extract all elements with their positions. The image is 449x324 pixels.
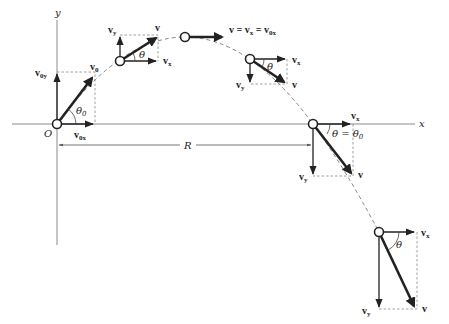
vy-label: vy xyxy=(362,305,371,318)
projectile-ball xyxy=(53,120,62,129)
theta-equals-theta0-label: θ = θ0 xyxy=(332,128,364,141)
v-label: v xyxy=(155,22,160,33)
v-label: v xyxy=(422,303,427,314)
range-label: R xyxy=(183,140,192,151)
v-vector xyxy=(120,38,156,61)
projectile-ball xyxy=(375,228,384,237)
vx-label: vx xyxy=(163,55,172,68)
trajectory-curve xyxy=(57,37,398,270)
theta-label: θ xyxy=(267,61,273,72)
vy-label: vy xyxy=(299,171,308,184)
theta0-label: θ0 xyxy=(76,105,87,118)
range-dimension: R xyxy=(59,140,311,151)
falling-point: vx v vy θ xyxy=(236,54,301,92)
v-label: v xyxy=(358,169,363,180)
apex-point: v = vx = v0x xyxy=(181,24,277,42)
projectile-ball xyxy=(309,120,318,129)
landing-point: vx v vy θ = θ0 xyxy=(299,110,364,184)
theta0-arc xyxy=(68,109,76,124)
vy-label: vy xyxy=(236,79,245,92)
below-launch-point: vx v vy θ xyxy=(362,227,430,318)
vy-label: vy xyxy=(108,24,117,37)
axes: x y O xyxy=(12,7,425,245)
projectile-ball xyxy=(116,57,125,66)
projectile-motion-diagram: x y O R v0 v0y v0x θ0 v vy vx θ xyxy=(0,0,449,324)
vx-label: vx xyxy=(292,54,301,67)
v0y-label: v0y xyxy=(35,67,48,80)
vx-label: vx xyxy=(421,227,430,240)
x-axis-label: x xyxy=(419,118,425,129)
theta-label: θ xyxy=(139,49,145,60)
apex-equation: v = vx = v0x xyxy=(229,24,276,37)
projectile-ball xyxy=(181,33,190,42)
rising-point: v vy vx θ xyxy=(108,22,172,68)
v0-label: v0 xyxy=(90,61,99,74)
v0x-label: v0x xyxy=(74,129,87,142)
v-label: v xyxy=(292,79,297,90)
projectile-ball xyxy=(246,55,255,64)
vx-label: vx xyxy=(351,110,360,123)
theta-label: θ xyxy=(396,239,402,250)
origin-label: O xyxy=(44,128,52,139)
y-axis-label: y xyxy=(54,7,61,18)
